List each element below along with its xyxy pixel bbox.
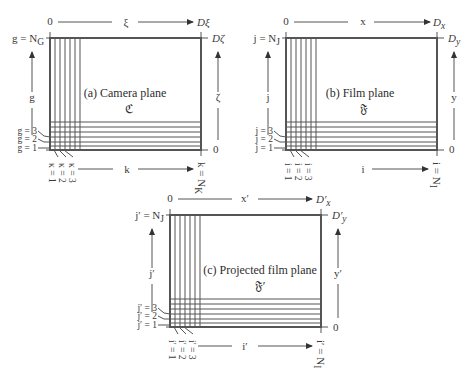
left-axis-top: g = NG [12, 32, 44, 47]
grid-columns [175, 215, 200, 327]
panel-title: (b) Film plane [326, 86, 395, 100]
bottom-tick-1: i′ = 1 [167, 340, 177, 360]
top-axis-origin: 0 [47, 15, 53, 27]
left-tick-1: j = 1 [255, 143, 274, 153]
left-tick-1: j′ = 1 [136, 320, 157, 330]
plane-symbol: 𝔉 [360, 102, 368, 116]
bottom-tick-2: κ = 2 [57, 163, 67, 183]
right-axis-top: Dζ [211, 32, 226, 45]
left-tick-1: g = 1 [17, 143, 37, 153]
plane-symbol: 𝔉′ [255, 279, 266, 293]
bottom-axis-label: k [124, 163, 130, 175]
diagram-canvas: (a) Camera plane ℭ 0 ξ Dξ g = NG g g = 3… [0, 0, 471, 383]
bottom-tick-3: i′ = 3 [187, 340, 197, 360]
panel-title: (a) Camera plane [84, 86, 167, 100]
left-axis-label: j′ [148, 267, 154, 279]
right-axis-label: y′ [334, 267, 342, 279]
grid-rows [170, 299, 321, 323]
bottom-tick-1: i = 1 [283, 163, 293, 181]
left-axis-top: j = NJ [253, 32, 281, 47]
bottom-axis-end: i′ = NI [312, 340, 327, 368]
right-axis-top: Dy [447, 32, 461, 47]
bottom-tick-3: κ = 3 [67, 163, 77, 183]
grid-rows [50, 122, 201, 146]
bottom-axis-label: i [361, 163, 364, 175]
plane-symbol: ℭ [125, 102, 133, 116]
grid-columns [291, 38, 316, 150]
top-axis-end: Dx [432, 16, 446, 31]
top-axis-label: x [360, 15, 366, 27]
panel-title: (c) Projected film plane [203, 263, 317, 277]
left-axis-label: g [29, 91, 35, 103]
bottom-axis-end: k = NK [193, 162, 208, 194]
bottom-axis-end: i = NI [428, 162, 443, 188]
right-axis-bottom: 0 [213, 143, 219, 155]
top-axis-origin: 0 [167, 192, 173, 204]
top-axis-end: D′x [315, 193, 331, 208]
top-axis-origin: 0 [283, 15, 289, 27]
grid-rows [286, 122, 437, 146]
bottom-axis-label: i′ [242, 340, 247, 352]
bottom-tick-2: i′ = 2 [177, 340, 187, 360]
right-axis-label: ζ [216, 91, 221, 104]
left-axis-top: j′ = NJ [134, 209, 164, 224]
right-axis-top: D′y [331, 209, 347, 224]
right-axis-bottom: 0 [449, 143, 455, 155]
bottom-tick-2: i = 2 [293, 163, 303, 181]
bottom-tick-1: κ = 1 [47, 163, 57, 183]
top-axis-end: Dξ [196, 16, 210, 29]
grid-columns [55, 38, 80, 150]
right-axis-bottom: 0 [333, 321, 339, 333]
top-axis-label: ξ [124, 16, 129, 29]
right-axis-label: y [451, 91, 457, 103]
top-axis-label: x′ [241, 192, 249, 204]
bottom-tick-3: i = 3 [303, 163, 313, 181]
left-axis-label: j [265, 91, 269, 103]
